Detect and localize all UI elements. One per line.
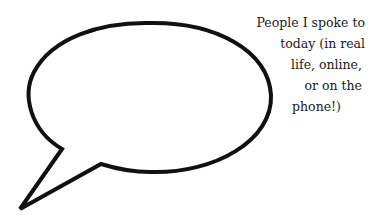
caption-line-4: or on the — [205, 75, 365, 96]
caption-text: People I spoke to today (in real life, o… — [205, 12, 365, 117]
caption-line-1: People I spoke to — [205, 12, 365, 33]
caption-line-3: life, online, — [205, 54, 365, 75]
caption-line-2: today (in real — [205, 33, 365, 54]
caption-line-5: phone!) — [205, 96, 365, 117]
